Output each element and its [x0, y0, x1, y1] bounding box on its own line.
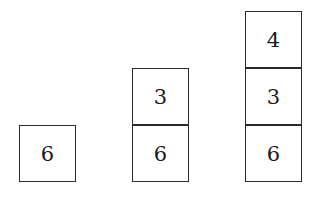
stack-3-box-bottom: 6 — [245, 125, 302, 182]
stack-2-box-top: 3 — [132, 68, 189, 125]
stack-1-box-bottom: 6 — [19, 125, 76, 182]
stack-3-box-top: 4 — [245, 11, 302, 68]
stack-2-box-bottom: 6 — [132, 125, 189, 182]
stack-3-box-middle: 3 — [245, 68, 302, 125]
